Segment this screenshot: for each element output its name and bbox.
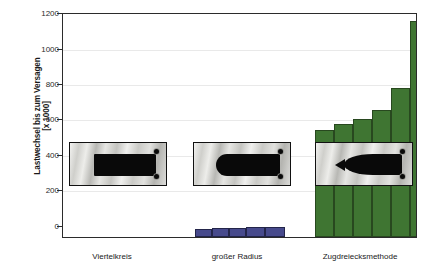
bar-großer-radius-4 [246, 227, 265, 237]
specimen-photo-zugdreieck [315, 142, 413, 186]
bolt-hole-icon [400, 149, 405, 154]
bar-zugdreiecksmethode-6 [410, 21, 417, 237]
specimen-photo-viertelkreis [69, 142, 167, 186]
y-tick-label-1000: 1000 [19, 44, 59, 53]
bolt-hole-icon [154, 149, 159, 154]
bar-großer-radius-3 [229, 228, 246, 237]
bar-chart: Lastwechsel bis zum Versagen [x 1000] 12… [0, 0, 429, 276]
bar-großer-radius-1 [195, 229, 212, 237]
y-tick-label-200: 200 [19, 186, 59, 195]
bar-großer-radius-2 [212, 228, 229, 237]
y-tick-label-400: 400 [19, 150, 59, 159]
y-tick-label-600: 600 [19, 115, 59, 124]
x-category-label-viertelkreis: Viertelkreis [92, 252, 131, 261]
bolt-hole-icon [278, 149, 283, 154]
x-category-label-grosser-radius: großer Radius [212, 252, 263, 261]
gridline-1000 [63, 50, 416, 51]
bolt-hole-icon [154, 174, 159, 179]
notch-square-icon [94, 154, 156, 176]
notch-taper-icon [344, 154, 402, 175]
bolt-hole-icon [278, 174, 283, 179]
x-category-label-zugdreiecksmethode: Zugdreiecksmethode [323, 252, 398, 261]
y-tick-label-1200: 1200 [19, 9, 59, 18]
y-tick-label-0: 0 [19, 221, 59, 230]
y-tick-label-800: 800 [19, 79, 59, 88]
notch-round-icon [216, 154, 280, 176]
bar-großer-radius-5 [265, 227, 285, 237]
bolt-hole-icon [400, 174, 405, 179]
gridline-800 [63, 85, 416, 86]
plot-area [62, 13, 417, 238]
specimen-photo-grosser-radius [193, 142, 291, 186]
